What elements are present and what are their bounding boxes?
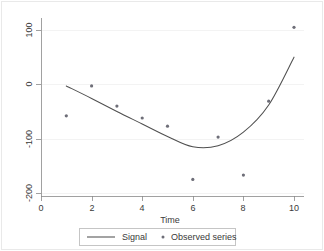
x-tick-label-0: 0 <box>38 203 43 213</box>
x-tick-label-10: 10 <box>289 203 299 213</box>
observed-point <box>242 173 245 176</box>
observed-point <box>191 178 194 181</box>
y-tick-label-100: 100 <box>24 22 34 37</box>
signal-line <box>66 57 294 148</box>
observed-point <box>292 26 295 29</box>
y-tick-label-neg200: -200 <box>24 184 34 202</box>
x-axis <box>41 196 304 201</box>
y-axis <box>36 18 41 196</box>
observed-point <box>166 125 169 128</box>
legend-label-signal: Signal <box>122 232 147 242</box>
x-tick-label-6: 6 <box>190 203 195 213</box>
plot-region: 100 0 -100 -200 0 2 4 6 8 10 <box>0 0 324 251</box>
observed-point <box>217 135 220 138</box>
observed-point <box>267 100 270 103</box>
x-tick-label-8: 8 <box>240 203 245 213</box>
chart-figure: 100 0 -100 -200 0 2 4 6 8 10 <box>0 0 324 251</box>
y-tick-label-neg100: -100 <box>24 130 34 148</box>
observed-point <box>115 104 118 107</box>
y-tick-label-0: 0 <box>24 81 34 86</box>
observed-point <box>90 84 93 87</box>
chart-svg: 100 0 -100 -200 0 2 4 6 8 10 <box>0 0 324 251</box>
x-axis-title: Time <box>160 215 180 225</box>
x-tick-label-2: 2 <box>89 203 94 213</box>
y-tick-labels: 100 0 -100 -200 <box>24 22 34 202</box>
x-tick-labels: 0 2 4 6 8 10 <box>38 203 299 213</box>
observed-point <box>65 114 68 117</box>
series-signal-line <box>66 57 294 148</box>
legend-label-observed: Observed series <box>171 232 237 242</box>
observed-point <box>141 116 144 119</box>
series-observed-markers <box>65 26 296 181</box>
legend-swatch-observed-icon <box>162 236 165 239</box>
x-tick-label-4: 4 <box>139 203 144 213</box>
legend: Signal Observed series <box>80 229 238 246</box>
